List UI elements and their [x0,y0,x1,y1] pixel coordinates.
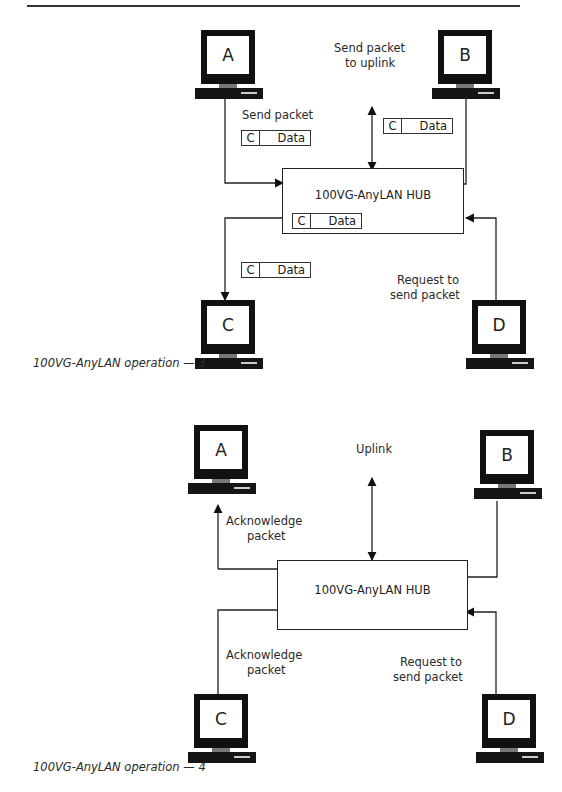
ack-c-label-line2: packet [247,663,286,677]
computer-d: D [476,694,544,764]
computer-c: C [188,694,256,764]
monitor-icon: A [194,425,248,479]
computer-a: A [195,30,263,100]
monitor-icon: C [201,300,255,354]
monitor-icon: D [482,694,536,748]
ack-c-label-line1: Acknowledge [226,648,302,662]
request-label-line2: send packet [390,288,460,302]
figure-caption: 100VG-AnyLAN operation — 4 [33,760,206,774]
packet-frame: CData [241,262,311,278]
base-unit [474,488,542,499]
base-unit [432,88,500,99]
base-unit [466,358,534,369]
computer-d: D [466,300,534,370]
computer-b: B [432,30,500,100]
ack-a-label-line1: Acknowledge [226,514,302,528]
base-unit [476,752,544,763]
packet-frame: CData [383,118,453,134]
monitor-icon: D [472,300,526,354]
base-unit [188,483,256,494]
base-unit [195,88,263,99]
figure-caption: 100VG-AnyLAN operation — 3 [33,356,206,370]
hub-box: 100VG-AnyLAN HUB [277,560,468,630]
monitor-icon: C [194,694,248,748]
computer-a: A [188,425,256,495]
packet-frame: CData [241,130,311,146]
ack-a-label-line2: packet [247,529,286,543]
send-uplink-label-line2: to uplink [345,56,395,70]
packet-frame: CData [292,213,362,229]
request-label-line1: Request to [400,655,462,669]
monitor-icon: B [438,30,492,84]
request-label-line1: Request to [397,273,459,287]
send-uplink-label-line1: Send packet [334,41,405,55]
computer-b: B [474,430,542,500]
monitor-icon: A [201,30,255,84]
request-label-line2: send packet [393,670,463,684]
uplink-label: Uplink [356,442,392,456]
send-packet-label: Send packet [242,108,313,122]
monitor-icon: B [480,430,534,484]
